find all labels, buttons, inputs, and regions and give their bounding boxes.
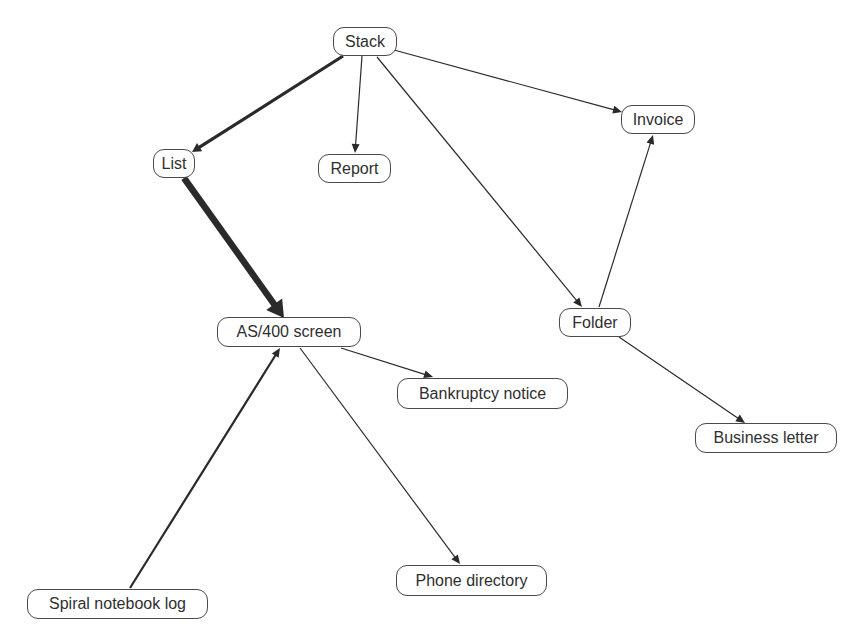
node-label: Report bbox=[330, 161, 378, 177]
edge-line bbox=[130, 355, 276, 588]
edge-spiral-to-as400 bbox=[130, 348, 280, 588]
node-label: Bankruptcy notice bbox=[419, 386, 546, 402]
node-list[interactable]: List bbox=[153, 149, 195, 178]
node-label: Spiral notebook log bbox=[49, 596, 186, 612]
node-label: Phone directory bbox=[415, 573, 527, 589]
arrowhead-icon bbox=[352, 144, 360, 153]
arrowhead-icon bbox=[423, 370, 433, 378]
edge-line bbox=[356, 56, 362, 145]
node-invoice[interactable]: Invoice bbox=[621, 105, 695, 134]
node-label: Business letter bbox=[714, 430, 819, 446]
node-label: AS/400 screen bbox=[237, 324, 342, 340]
node-label: Invoice bbox=[633, 112, 684, 128]
arrowhead-icon bbox=[735, 415, 745, 423]
edge-line bbox=[394, 50, 614, 110]
edge-line bbox=[199, 56, 343, 148]
edge-folder-to-business bbox=[619, 337, 745, 423]
node-stack[interactable]: Stack bbox=[333, 27, 397, 56]
node-label: List bbox=[162, 156, 187, 172]
edge-line bbox=[341, 348, 425, 375]
node-report[interactable]: Report bbox=[318, 154, 391, 183]
node-bankruptcy[interactable]: Bankruptcy notice bbox=[397, 378, 568, 409]
node-label: Stack bbox=[345, 34, 385, 50]
edge-stack-to-invoice bbox=[394, 50, 622, 113]
edge-stack-to-folder bbox=[377, 57, 582, 307]
edge-line bbox=[377, 57, 577, 301]
arrowhead-icon bbox=[646, 135, 654, 145]
node-label: Folder bbox=[572, 315, 617, 331]
node-folder[interactable]: Folder bbox=[559, 308, 631, 337]
edge-line bbox=[599, 143, 651, 307]
edge-folder-to-invoice bbox=[599, 135, 654, 307]
node-phone[interactable]: Phone directory bbox=[396, 565, 547, 596]
edge-stack-to-list bbox=[192, 56, 343, 152]
edge-stack-to-report bbox=[352, 56, 362, 153]
node-business[interactable]: Business letter bbox=[695, 423, 837, 453]
arrowhead-icon bbox=[451, 554, 460, 564]
edge-as400-to-bankruptcy bbox=[341, 348, 433, 378]
node-spiral[interactable]: Spiral notebook log bbox=[27, 589, 208, 619]
edge-line bbox=[619, 337, 738, 418]
edge-line bbox=[184, 178, 275, 305]
edge-list-to-as400 bbox=[184, 178, 284, 318]
arrowhead-icon bbox=[573, 298, 582, 307]
graph-edges-canvas bbox=[0, 0, 859, 639]
node-as400[interactable]: AS/400 screen bbox=[217, 317, 361, 347]
